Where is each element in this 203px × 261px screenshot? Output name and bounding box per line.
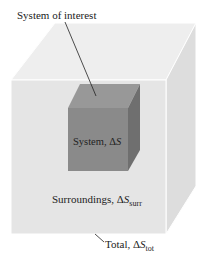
label-total: Total, ΔStot <box>105 238 155 253</box>
inner-cube-system <box>68 84 140 171</box>
inner-cube-top-face <box>68 84 140 108</box>
outer-box-top-face <box>11 23 196 80</box>
entropy-diagram: System of interest System, ΔS Surroundin… <box>0 0 203 261</box>
total-leader-line <box>95 234 104 242</box>
label-system: System, ΔS <box>73 136 122 147</box>
label-system-of-interest: System of interest <box>17 9 96 21</box>
